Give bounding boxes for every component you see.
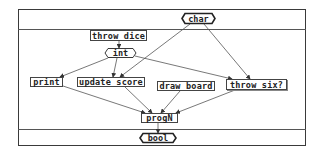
node-print[interactable]: print xyxy=(30,77,63,87)
edge-drawboard-progn xyxy=(161,91,180,113)
edge-print-progn xyxy=(63,86,145,113)
node-update-score[interactable]: update score xyxy=(77,77,145,87)
node-progn[interactable]: progN xyxy=(141,113,178,123)
edge-char-throwsix xyxy=(204,24,250,79)
node-draw-board[interactable]: draw board xyxy=(157,81,215,91)
edge-throwsix-progn xyxy=(176,90,235,113)
input-type-char[interactable]: char xyxy=(182,13,215,24)
node-int[interactable]: int xyxy=(105,48,136,58)
edge-updatescore-progn xyxy=(125,87,152,113)
edge-int-throwsix xyxy=(135,56,232,79)
edge-int-updatescore xyxy=(113,58,117,77)
output-type-bool[interactable]: bool xyxy=(140,133,176,143)
node-throw-six[interactable]: throw six? xyxy=(226,79,287,90)
node-throw-dice[interactable]: throw dice xyxy=(90,30,147,41)
edge-int-print xyxy=(60,58,108,77)
